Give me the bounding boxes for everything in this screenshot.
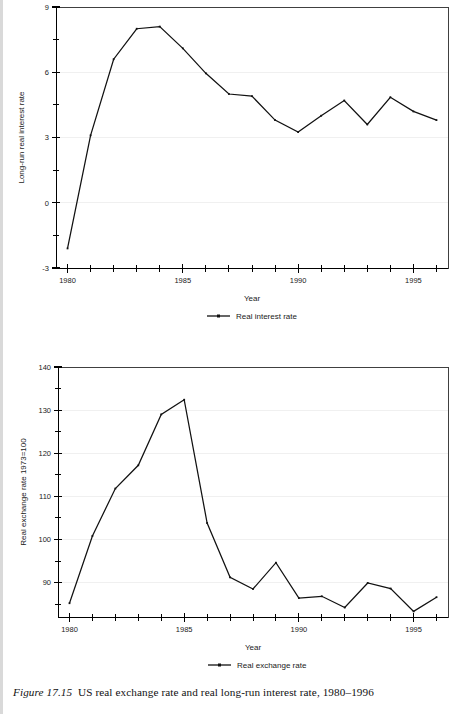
- legend-label: Real exchange rate: [237, 661, 307, 670]
- interest-rate-plot: -303691980198519901995YearLong-run real …: [0, 0, 465, 355]
- data-point: [183, 399, 185, 401]
- data-point: [114, 488, 116, 490]
- legend-marker: [217, 315, 220, 318]
- figure-number: Figure 17.15: [13, 686, 72, 698]
- data-point: [297, 131, 299, 133]
- x-tick-label: 1980: [61, 625, 78, 634]
- data-point: [275, 562, 277, 564]
- x-tick-label: 1990: [291, 625, 308, 634]
- data-point: [205, 72, 207, 74]
- x-tick-label: 1985: [176, 625, 193, 634]
- data-point: [366, 124, 368, 126]
- legend-label: Real interest rate: [236, 312, 297, 321]
- x-tick-label: 1995: [405, 625, 422, 634]
- series-line-real-exchange-rate: [69, 400, 436, 612]
- x-tick-label: 1985: [174, 276, 191, 285]
- y-tick-label: 9: [45, 3, 49, 12]
- legend-marker: [218, 664, 221, 667]
- y-tick-label: 130: [38, 406, 51, 415]
- data-point: [367, 582, 369, 584]
- figure-caption-body: US real exchange rate and real long-run …: [78, 686, 374, 698]
- data-point: [343, 100, 345, 102]
- data-point: [274, 119, 276, 121]
- axis-lines: [58, 367, 448, 617]
- y-tick-label: 90: [43, 578, 51, 587]
- plot-frame: [58, 367, 448, 617]
- figure-page: -303691980198519901995YearLong-run real …: [0, 0, 465, 714]
- data-point: [389, 96, 391, 98]
- data-point: [298, 597, 300, 599]
- data-point: [182, 47, 184, 49]
- chart-interest-rate: -303691980198519901995YearLong-run real …: [0, 0, 465, 355]
- data-point: [251, 95, 253, 97]
- y-axis-title: Long-run real interest rate: [17, 91, 26, 184]
- data-point: [321, 595, 323, 597]
- data-point: [229, 576, 231, 578]
- x-tick-label: 1980: [59, 276, 76, 285]
- data-point: [228, 93, 230, 95]
- data-point: [90, 134, 92, 136]
- data-point: [113, 58, 115, 60]
- data-point: [436, 596, 438, 598]
- y-axis-title: Real exchange rate 1973=100: [19, 438, 28, 546]
- x-axis-title: Year: [244, 294, 261, 303]
- y-tick-label: 6: [45, 68, 49, 77]
- data-point: [136, 28, 138, 30]
- data-point: [390, 588, 392, 590]
- data-point: [206, 522, 208, 524]
- data-point: [137, 464, 139, 466]
- chart-exchange-rate: 901001101201301401980198519901995YearRea…: [0, 355, 465, 675]
- data-point: [320, 115, 322, 117]
- data-point: [67, 248, 69, 250]
- y-tick-label: 140: [38, 363, 51, 372]
- y-tick-label: 110: [39, 492, 51, 501]
- data-point: [413, 111, 415, 113]
- data-point: [344, 607, 346, 609]
- data-point: [252, 588, 254, 590]
- data-point: [159, 26, 161, 28]
- y-tick-label: -3: [42, 264, 49, 273]
- exchange-rate-plot: 901001101201301401980198519901995YearRea…: [0, 355, 465, 675]
- data-point: [92, 535, 94, 537]
- x-tick-label: 1995: [405, 276, 422, 285]
- x-axis-title: Year: [245, 643, 262, 652]
- data-point: [160, 414, 162, 416]
- data-point: [413, 611, 415, 613]
- figure-caption: Figure 17.15 US real exchange rate and r…: [13, 686, 463, 698]
- y-tick-label: 100: [38, 535, 51, 544]
- data-point: [436, 119, 438, 121]
- y-tick-label: 120: [38, 449, 51, 458]
- data-point: [69, 602, 71, 604]
- y-tick-label: 3: [45, 133, 49, 142]
- y-tick-label: 0: [45, 199, 49, 208]
- x-tick-label: 1990: [290, 276, 307, 285]
